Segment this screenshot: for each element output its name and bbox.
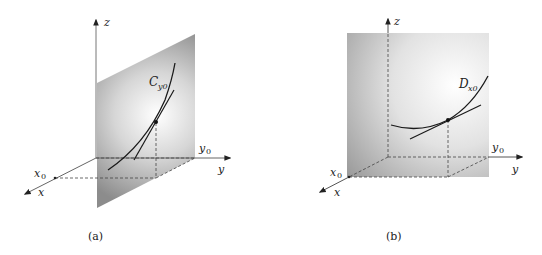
svg-text:0: 0 <box>499 146 504 155</box>
panel-b: z y x y 0 x 0 D x0 (b) <box>320 15 522 243</box>
y0-label-a: y 0 <box>198 142 211 156</box>
plane-a <box>97 34 195 208</box>
point-b <box>446 118 450 122</box>
z-label-b: z <box>393 15 400 28</box>
svg-text:C: C <box>149 75 158 89</box>
svg-text:0: 0 <box>206 147 211 156</box>
x-label-a: x <box>38 186 45 199</box>
y-label-a: y <box>217 163 225 176</box>
x0-label-b: x 0 <box>330 166 342 180</box>
z-label-a: z <box>103 16 110 29</box>
svg-text:x: x <box>330 166 337 179</box>
x0-tick-a <box>54 177 57 180</box>
svg-text:x0: x0 <box>468 84 478 93</box>
figure-canvas: z y x y 0 x 0 C y0 (a) <box>0 0 542 255</box>
x0-label-a: x 0 <box>34 167 46 181</box>
svg-text:y0: y0 <box>157 82 168 91</box>
x-label-b: x <box>334 186 341 199</box>
svg-text:0: 0 <box>41 172 46 181</box>
y-label-b: y <box>511 163 519 176</box>
svg-text:y: y <box>491 141 499 154</box>
svg-text:y: y <box>198 142 206 155</box>
y0-label-b: y 0 <box>491 141 504 155</box>
caption-a: (a) <box>88 230 103 243</box>
caption-b: (b) <box>386 230 402 243</box>
panel-a: z y x y 0 x 0 C y0 (a) <box>25 16 230 243</box>
svg-text:x: x <box>34 167 41 180</box>
x0-tick-b <box>348 176 351 179</box>
point-a <box>154 120 158 124</box>
svg-text:0: 0 <box>337 171 342 180</box>
